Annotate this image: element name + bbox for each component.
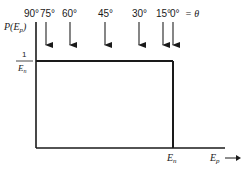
y-tick-denominator: En [17,63,27,74]
theta-label: = θ [185,8,199,19]
angle-label-15: 15° [156,8,171,19]
energy-distribution-diagram: 90° 75° 60° 45° 30° 15° 0° = θ P(Ep) 1 E… [0,0,241,170]
angle-label-30: 30° [132,8,147,19]
y-tick-numerator: 1 [22,50,27,59]
incidence-arrows [46,22,173,45]
angle-label-0: 0° [170,8,180,19]
y-axis-label: P(Ep) [3,21,27,34]
angle-label-75: 75° [40,8,55,19]
angle-label-60: 60° [62,8,77,19]
x-axis-label: Ep [209,152,220,165]
x-tick-label: En [166,152,177,165]
arrow-right-icon [236,155,241,161]
angle-label-45: 45° [98,8,113,19]
angle-label-90: 90° [24,8,39,19]
